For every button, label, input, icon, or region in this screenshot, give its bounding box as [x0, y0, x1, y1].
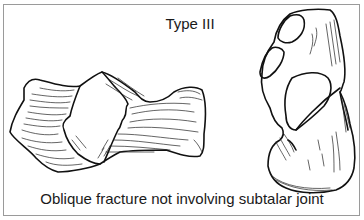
- figure-caption-text: Oblique fracture not involving subtalar …: [40, 190, 324, 207]
- figure-caption: Oblique fracture not involving subtalar …: [0, 190, 364, 207]
- calcaneus-lateral-view: [10, 72, 205, 172]
- fracture-illustrations: [0, 0, 364, 220]
- calcaneus-superior-view: [260, 9, 355, 193]
